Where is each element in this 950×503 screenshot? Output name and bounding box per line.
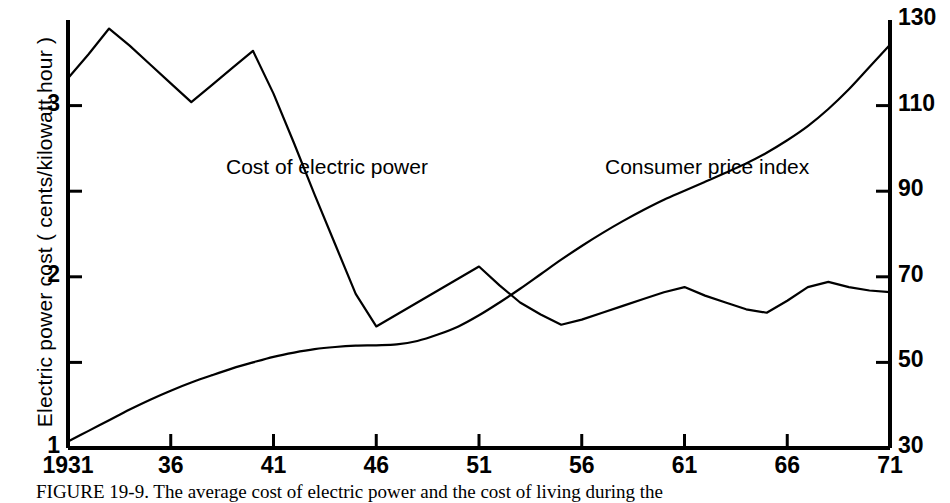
y-axis-left-title: Electric power cost ( cents/kilowatt hou… — [33, 0, 57, 467]
series-line-consumer-price-index — [68, 45, 890, 442]
x-axis-tick-label: 71 — [845, 452, 935, 479]
x-axis-tick-label: 56 — [537, 452, 627, 479]
x-axis-tick-label: 41 — [229, 452, 319, 479]
figure-caption: FIGURE 19-9. The average cost of electri… — [36, 481, 950, 503]
y-axis-right-ticks — [876, 106, 890, 363]
y-axis-right-tick-label: 110 — [898, 90, 950, 117]
x-axis-tick-label: 1931 — [23, 452, 113, 479]
axes — [68, 20, 890, 448]
series-annotation-consumer-price-index: Consumer price index — [605, 155, 809, 179]
series-annotation-electric-power: Cost of electric power — [226, 155, 428, 179]
y-axis-left-ticks — [68, 106, 82, 363]
x-axis-tick-label: 46 — [331, 452, 421, 479]
y-axis-right-tick-label: 70 — [898, 261, 950, 288]
data-series-group — [68, 29, 890, 442]
x-axis-ticks — [171, 434, 788, 448]
y-axis-right-tick-label: 90 — [898, 175, 950, 202]
x-axis-tick-label: 51 — [434, 452, 524, 479]
x-axis-tick-label: 61 — [640, 452, 730, 479]
y-axis-left-tick-label: 2 — [16, 261, 60, 288]
y-axis-left-tick-label: 3 — [16, 90, 60, 117]
x-axis-tick-label: 36 — [126, 452, 216, 479]
y-axis-right-tick-label: 50 — [898, 346, 950, 373]
y-axis-right-tick-label: 130 — [898, 4, 950, 31]
x-axis-tick-label: 66 — [742, 452, 832, 479]
